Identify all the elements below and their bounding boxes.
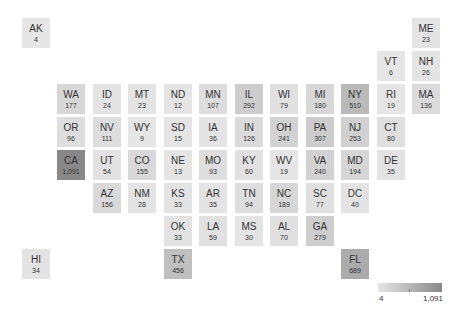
state-value: 4 [34, 35, 38, 44]
state-abbr: UT [100, 155, 113, 166]
state-tile-de: DE35 [377, 150, 405, 180]
state-tile-tx: TX456 [164, 249, 192, 279]
state-abbr: IN [244, 122, 254, 133]
state-tile-ct: CT80 [377, 117, 405, 147]
state-value: 253 [349, 134, 361, 143]
state-abbr: NJ [349, 122, 361, 133]
state-abbr: WV [276, 155, 292, 166]
state-abbr: AL [278, 221, 290, 232]
state-abbr: MS [242, 221, 257, 232]
state-tile-wv: WV19 [270, 150, 298, 180]
state-abbr: NY [348, 89, 362, 100]
state-tile-ma: MA136 [412, 84, 440, 114]
state-value: 36 [209, 134, 217, 143]
state-value: 70 [280, 233, 288, 242]
color-scale-legend [378, 283, 442, 292]
state-abbr: KS [171, 188, 184, 199]
state-tile-ak: AK4 [22, 18, 50, 48]
state-abbr: SD [171, 122, 185, 133]
state-abbr: RI [386, 89, 396, 100]
state-value: 136 [420, 101, 432, 110]
state-tile-ca: CA1,091 [57, 150, 85, 180]
state-abbr: AR [206, 188, 220, 199]
state-value: 12 [174, 101, 182, 110]
state-value: 155 [136, 167, 148, 176]
state-abbr: HI [31, 254, 41, 265]
state-value: 24 [103, 101, 111, 110]
state-value: 194 [349, 167, 361, 176]
state-tile-me: ME23 [412, 18, 440, 48]
state-value: 40 [351, 200, 359, 209]
state-value: 111 [102, 134, 113, 143]
state-abbr: NM [134, 188, 150, 199]
state-value: 13 [174, 167, 182, 176]
state-value: 279 [314, 233, 326, 242]
state-abbr: LA [207, 221, 219, 232]
state-value: 30 [245, 233, 253, 242]
state-tile-id: ID24 [93, 84, 121, 114]
state-tile-fl: FL689 [341, 249, 369, 279]
state-value: 241 [278, 134, 290, 143]
state-tile-ri: RI19 [377, 84, 405, 114]
state-tile-mt: MT23 [128, 84, 156, 114]
state-abbr: MT [135, 89, 149, 100]
state-abbr: MD [347, 155, 363, 166]
state-tile-dc: DC40 [341, 183, 369, 213]
state-tile-vt: VT6 [377, 51, 405, 81]
state-tile-ia: IA36 [199, 117, 227, 147]
state-value: 15 [174, 134, 182, 143]
state-tile-sd: SD15 [164, 117, 192, 147]
state-tile-ga: GA279 [306, 216, 334, 246]
state-value: 54 [103, 167, 111, 176]
state-abbr: OR [64, 122, 79, 133]
state-abbr: AZ [101, 188, 114, 199]
state-value: 1,091 [62, 167, 80, 176]
state-abbr: PA [314, 122, 327, 133]
state-abbr: CA [64, 155, 78, 166]
state-value: 177 [65, 101, 77, 110]
state-tile-ms: MS30 [235, 216, 263, 246]
state-abbr: SC [313, 188, 327, 199]
state-value: 60 [245, 167, 253, 176]
state-value: 33 [174, 200, 182, 209]
state-value: 34 [32, 266, 40, 275]
state-tile-ar: AR35 [199, 183, 227, 213]
state-tile-ne: NE13 [164, 150, 192, 180]
state-tile-sc: SC77 [306, 183, 334, 213]
state-abbr: WI [278, 89, 290, 100]
state-value: 80 [387, 134, 395, 143]
state-abbr: OK [171, 221, 185, 232]
state-value: 77 [316, 200, 324, 209]
state-value: 689 [349, 266, 361, 275]
state-value: 23 [422, 35, 430, 44]
state-tile-mn: MN107 [199, 84, 227, 114]
state-tile-md: MD194 [341, 150, 369, 180]
state-tile-ny: NY510 [341, 84, 369, 114]
state-abbr: WA [63, 89, 79, 100]
state-tile-ky: KY60 [235, 150, 263, 180]
state-value: 456 [172, 266, 184, 275]
state-tile-hi: HI34 [22, 249, 50, 279]
state-tile-ok: OK33 [164, 216, 192, 246]
state-value: 79 [280, 101, 288, 110]
state-tile-co: CO155 [128, 150, 156, 180]
state-tile-va: VA240 [306, 150, 334, 180]
state-abbr: TN [242, 188, 255, 199]
state-abbr: DC [348, 188, 362, 199]
state-abbr: NE [171, 155, 185, 166]
state-tile-wa: WA177 [57, 84, 85, 114]
state-tile-al: AL70 [270, 216, 298, 246]
state-tile-mo: MO93 [199, 150, 227, 180]
state-value: 96 [67, 134, 75, 143]
state-tile-nv: NV111 [93, 117, 121, 147]
tile-grid-map: AK4ME23VT6NH26WA177ID24MT23ND12MN107IL29… [0, 0, 466, 321]
state-abbr: MA [419, 89, 434, 100]
state-tile-nc: NC189 [270, 183, 298, 213]
state-tile-oh: OH241 [270, 117, 298, 147]
state-value: 35 [387, 167, 395, 176]
state-tile-la: LA59 [199, 216, 227, 246]
state-value: 189 [278, 200, 290, 209]
legend-max-label: 1,091 [423, 294, 443, 303]
state-abbr: ME [419, 23, 434, 34]
state-tile-pa: PA307 [306, 117, 334, 147]
